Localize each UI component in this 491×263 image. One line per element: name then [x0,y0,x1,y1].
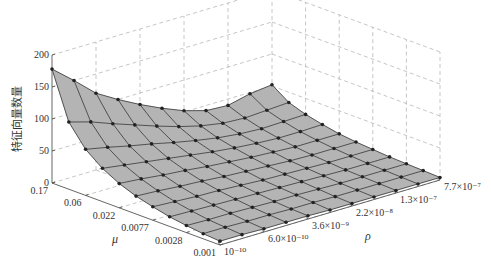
data-point-marker [240,233,244,237]
data-point-marker [383,168,387,172]
data-point-marker [189,153,193,157]
data-point-marker [438,176,442,180]
data-point-marker [288,159,292,163]
mu-tick [86,194,89,195]
data-point-marker [239,183,243,187]
data-point-marker [217,189,221,193]
data-point-marker [262,227,266,231]
data-point-marker [245,220,249,224]
data-point-marker [256,192,260,196]
mu-tick-label: 0.17 [31,185,49,196]
data-point-marker [322,174,326,178]
rho-tick-label: 7.7×10⁻⁷ [444,181,481,192]
mu-tick-label: 0.0077 [121,222,149,233]
data-point-marker [145,160,149,164]
data-point-marker [116,98,120,102]
data-point-marker [394,189,398,193]
data-point-marker [233,146,237,150]
data-point-marker [218,239,222,243]
data-point-marker [111,122,115,126]
data-point-marker [221,121,225,125]
data-point-marker [72,79,76,83]
data-point-marker [94,91,98,95]
z-axis-label: 特征向量数量 [10,86,23,152]
data-point-marker [399,175,403,179]
data-point-marker [156,189,160,193]
z-tick [52,54,55,55]
data-point-marker [226,104,230,108]
data-point-marker [295,193,299,197]
data-point-marker [216,136,220,140]
data-point-marker [234,197,238,201]
mu-tick [220,244,223,245]
data-point-marker [177,125,181,129]
data-point-marker [161,173,165,177]
data-point-marker [139,177,143,181]
gridline [52,0,272,55]
data-point-marker [321,123,325,127]
data-point-marker [332,147,336,151]
data-point-marker [265,108,269,112]
data-point-marker [377,182,381,186]
data-point-marker [201,232,205,236]
data-point-marker [289,207,293,211]
data-point-marker [185,224,189,228]
data-point-marker [328,208,332,212]
data-point-marker [160,106,164,110]
data-point-marker [255,142,259,146]
data-point-marker [270,83,274,87]
data-point-marker [283,172,287,176]
data-point-marker [244,169,248,173]
rho-tick-label: 10⁻¹⁰ [224,246,246,257]
data-point-marker [293,145,297,149]
data-point-marker [317,187,321,191]
data-point-marker [199,124,203,128]
data-point-marker [211,150,215,154]
data-point-marker [249,155,253,159]
data-point-marker [333,195,337,199]
gridline [272,54,440,116]
data-point-marker [337,132,341,136]
data-point-marker [266,164,270,168]
data-point-marker [304,113,308,117]
data-point-marker [355,188,359,192]
data-point-marker [371,148,375,152]
data-point-marker [150,142,154,146]
data-point-marker [155,124,159,128]
data-point-marker [267,213,271,217]
mu-tick-label: 0.001 [194,247,217,258]
data-point-marker [310,153,314,157]
data-point-marker [89,120,93,124]
gridline [272,22,440,84]
data-point-marker [101,167,105,171]
data-point-marker [173,200,177,204]
data-point-marker [344,168,348,172]
data-point-marker [178,184,182,188]
mu-tick [153,219,156,220]
data-point-marker [388,155,392,159]
data-point-marker [284,221,288,225]
data-point-marker [315,139,319,143]
data-point-marker [278,186,282,190]
data-point-marker [277,136,281,140]
data-point-marker [194,139,198,143]
data-point-marker [123,163,127,167]
data-point-marker [222,175,226,179]
data-point-marker [106,146,110,150]
data-point-marker [305,167,309,171]
data-point-marker [300,180,304,184]
data-point-marker [207,218,211,222]
data-point-marker [327,161,331,165]
data-point-marker [117,182,121,186]
data-point-marker [421,169,425,173]
data-point-marker [372,195,376,199]
mu-tick-label: 0.022 [93,210,116,221]
data-point-marker [349,154,353,158]
data-point-marker [416,182,420,186]
data-point-marker [311,201,315,205]
gridline [272,0,440,52]
data-point-marker [134,194,138,198]
data-point-marker [67,120,71,124]
rho-tick-label: 1.3×10⁻⁷ [400,194,437,205]
z-tick-label: 100 [34,113,49,124]
